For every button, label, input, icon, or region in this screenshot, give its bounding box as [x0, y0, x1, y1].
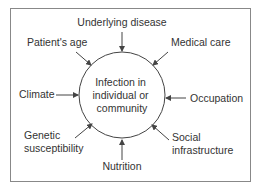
factor-social-infrastructure: Social infrastructure [172, 131, 233, 156]
factor-climate: Climate [19, 88, 55, 100]
factor-genetic-susceptibility: Genetic susceptibility [24, 129, 84, 154]
diagram-canvas: Infection in individual or community Und… [0, 0, 261, 192]
factor-medical-care: Medical care [171, 36, 231, 48]
arrow-medical-care [153, 52, 168, 65]
arrow-social-infrastructure [152, 125, 169, 140]
factor-nutrition: Nutrition [102, 160, 141, 172]
center-label: Infection in individual or community [93, 76, 152, 114]
factor-patients-age: Patient's age [27, 36, 88, 48]
factor-underlying-disease: Underlying disease [77, 16, 166, 28]
arrow-patients-age [76, 52, 91, 65]
arrow-genetic-susceptibility [75, 124, 92, 138]
factor-occupation: Occupation [190, 92, 243, 104]
